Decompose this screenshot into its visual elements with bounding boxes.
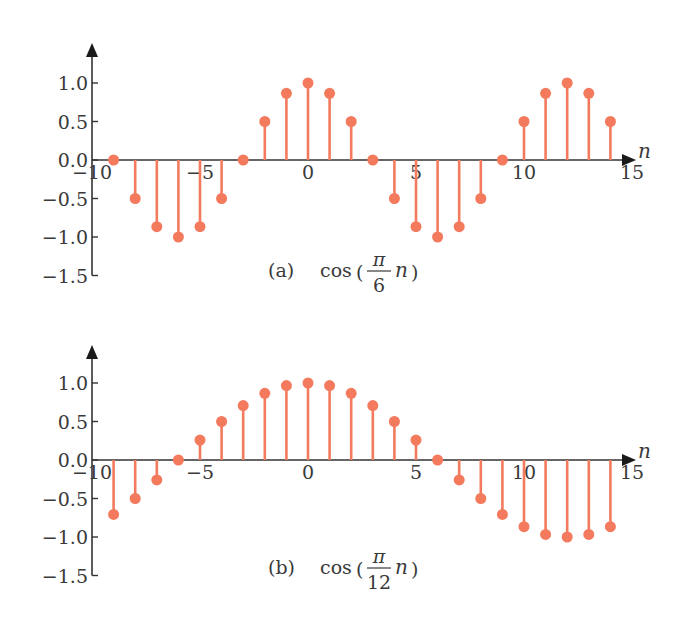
- stem-marker: [411, 435, 422, 446]
- stem-marker: [173, 455, 184, 466]
- stem: [519, 116, 530, 160]
- caption-numerator: π: [372, 545, 386, 567]
- stem-marker: [346, 388, 357, 399]
- stem: [151, 460, 162, 485]
- stem: [411, 435, 422, 460]
- y-tick-label: −1.5: [42, 565, 88, 587]
- x-axis-label: n: [638, 139, 651, 163]
- stem: [605, 460, 616, 532]
- stem-marker: [259, 388, 270, 399]
- stem-marker: [130, 493, 141, 504]
- stem-marker: [195, 435, 206, 446]
- stem: [605, 116, 616, 160]
- stem: [130, 160, 141, 204]
- x-tick-label: −5: [186, 461, 214, 483]
- x-tick-label: 0: [302, 461, 314, 483]
- caption-label: (a): [268, 259, 294, 281]
- y-tick-label: −1.0: [42, 526, 88, 548]
- stem-marker: [411, 221, 422, 232]
- stem-marker: [238, 155, 249, 166]
- stem: [432, 160, 443, 243]
- x-tick-label: 10: [512, 161, 536, 183]
- x-tick-label: −10: [72, 461, 112, 483]
- caption-function: cos: [320, 259, 352, 281]
- y-tick-label: 0.5: [58, 111, 88, 133]
- stem: [562, 78, 573, 161]
- stem-marker: [259, 116, 270, 127]
- panel-caption: (b)cos(π12n): [268, 545, 418, 593]
- stem-marker: [367, 400, 378, 411]
- caption-paren-right: ): [411, 558, 418, 580]
- caption-paren-left: (: [356, 261, 363, 283]
- stem: [454, 160, 465, 232]
- caption-numerator: π: [372, 248, 386, 270]
- stem: [540, 460, 551, 540]
- y-tick-label: −1.0: [42, 226, 88, 248]
- stem-marker: [454, 221, 465, 232]
- x-axis-label: n: [638, 439, 651, 463]
- stem-marker: [108, 509, 119, 520]
- caption-denominator: 6: [373, 274, 385, 296]
- stem-marker: [562, 78, 573, 89]
- x-tick-label: 15: [620, 461, 644, 483]
- caption-paren-left: (: [356, 558, 363, 580]
- stem: [108, 155, 119, 166]
- stem: [346, 388, 357, 460]
- stem-marker: [303, 78, 314, 89]
- stem-marker: [497, 155, 508, 166]
- stem: [324, 380, 335, 460]
- stem-marker: [475, 193, 486, 204]
- stem-marker: [583, 529, 594, 540]
- x-tick-label: 0: [302, 161, 314, 183]
- y-tick-label: −1.5: [42, 265, 88, 287]
- stem: [583, 460, 594, 540]
- stem-marker: [583, 88, 594, 99]
- stem-marker: [238, 400, 249, 411]
- caption-paren-right: ): [411, 261, 418, 283]
- stem-marker: [389, 193, 400, 204]
- stem-marker: [562, 532, 573, 543]
- stem: [216, 416, 227, 460]
- caption-label: (b): [268, 556, 295, 578]
- caption-denominator: 12: [367, 571, 391, 593]
- stem-marker: [605, 521, 616, 532]
- stem: [346, 116, 357, 160]
- stem: [281, 380, 292, 460]
- stem: [475, 160, 486, 204]
- x-tick-label: 5: [410, 461, 422, 483]
- y-axis-arrow-icon: [86, 345, 98, 359]
- stem: [367, 155, 378, 166]
- panel-a-cos-pi-6: 1.00.50.0−0.5−1.0−1.5n−10−5051015(a)cos(…: [42, 43, 651, 296]
- stem-marker: [519, 116, 530, 127]
- stem-marker: [151, 221, 162, 232]
- stem-plot-figure: 1.00.50.0−0.5−1.0−1.5n−10−5051015(a)cos(…: [0, 0, 686, 620]
- stem-marker: [519, 521, 530, 532]
- stem-marker: [195, 221, 206, 232]
- stem: [303, 378, 314, 461]
- stem: [195, 435, 206, 460]
- caption-function: cos: [320, 556, 352, 578]
- panel-caption: (a)cos(π6n): [268, 248, 418, 296]
- stem: [454, 460, 465, 485]
- stem-marker: [151, 474, 162, 485]
- panel-b-cos-pi-12: 1.00.50.0−0.5−1.0−1.5n−10−5051015(b)cos(…: [42, 345, 651, 593]
- stem: [389, 160, 400, 204]
- stem: [151, 160, 162, 232]
- stem-marker: [324, 88, 335, 99]
- stem: [324, 88, 335, 160]
- stem-marker: [367, 155, 378, 166]
- stem-marker: [432, 232, 443, 243]
- stem-marker: [454, 474, 465, 485]
- stem-marker: [130, 193, 141, 204]
- stem: [281, 88, 292, 160]
- y-tick-label: −0.5: [42, 488, 88, 510]
- stem: [389, 416, 400, 460]
- stem-marker: [389, 416, 400, 427]
- stem-marker: [346, 116, 357, 127]
- stem: [562, 460, 573, 543]
- x-tick-label: 15: [620, 161, 644, 183]
- stem-marker: [475, 493, 486, 504]
- y-axis-arrow-icon: [86, 43, 98, 57]
- stem: [259, 116, 270, 160]
- x-tick-label: −10: [72, 161, 112, 183]
